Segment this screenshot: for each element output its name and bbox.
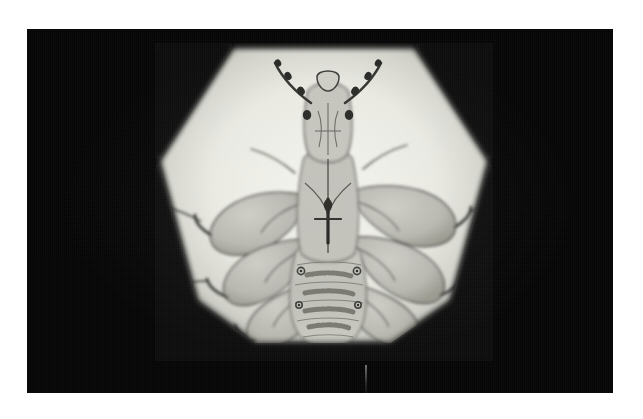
- microscope-field: [155, 43, 493, 361]
- page-margin-top: [0, 0, 643, 29]
- figure-caption: [27, 398, 613, 416]
- page-margin-left: [0, 0, 27, 419]
- photograph-page: [0, 0, 643, 419]
- photomicrograph-print: [27, 29, 613, 393]
- dust-streak-artifact: [365, 365, 367, 393]
- specimen-illustration: [155, 43, 493, 361]
- page-margin-right: [613, 0, 643, 419]
